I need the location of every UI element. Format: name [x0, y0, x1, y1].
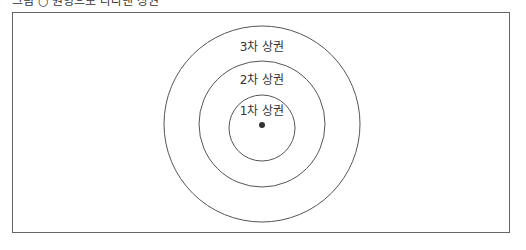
secondary-trade-area-label: 2차 상권 — [240, 73, 284, 87]
center-point-icon — [259, 122, 265, 128]
trade-area-diagram: 3차 상권 2차 상권 1차 상권 — [0, 0, 526, 250]
tertiary-trade-area-label: 3차 상권 — [240, 40, 284, 54]
primary-trade-area-label: 1차 상권 — [240, 104, 284, 118]
